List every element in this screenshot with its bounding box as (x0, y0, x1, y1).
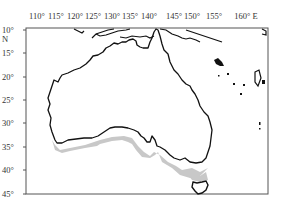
northern-islands (74, 29, 266, 42)
lon-label-130: 130° (104, 11, 120, 21)
tasmania-coastline (192, 181, 208, 194)
lon-label-160: 160° E (234, 11, 257, 21)
lon-label-120: 120° (67, 11, 83, 21)
map-frame (26, 28, 268, 194)
lon-label-110: 110° (29, 11, 45, 21)
lon-label-145: 145° (166, 11, 182, 21)
pacific-islands (214, 58, 265, 130)
lat-label-40: 40° (2, 165, 14, 175)
lon-label-115: 115° (48, 11, 64, 21)
lat-label-45: 45° (2, 189, 14, 199)
lat-label-n: N (2, 34, 8, 44)
lon-label-125: 125° (85, 11, 101, 21)
lat-label-30: 30° (2, 118, 14, 128)
shaded-southern-coast-band (52, 136, 208, 178)
lon-label-150: 150° (184, 11, 200, 21)
lon-label-155: 155° (206, 11, 222, 21)
lon-label-135: 135° (122, 11, 138, 21)
lat-label-20: 20° (2, 72, 14, 82)
map-canvas (0, 0, 286, 214)
lat-label-35: 35° (2, 142, 14, 152)
lat-label-15: 15° (2, 48, 14, 58)
lon-label-140: 140° (141, 11, 157, 21)
lat-label-25: 25° (2, 95, 14, 105)
